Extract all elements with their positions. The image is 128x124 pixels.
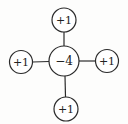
left-node-label: +1 <box>13 56 29 69</box>
bottom-node: +1 <box>54 97 78 121</box>
bottom-node-label: +1 <box>58 103 74 116</box>
stencil-diagram: −4 +1 +1 +1 +1 <box>0 0 128 124</box>
center-node: −4 <box>49 46 79 76</box>
edge-bottom <box>65 76 66 97</box>
edge-left <box>33 62 50 63</box>
stencil-svg: −4 +1 +1 +1 +1 <box>0 0 128 124</box>
left-node: +1 <box>10 51 33 74</box>
top-node-label: +1 <box>56 14 72 27</box>
right-node-label: +1 <box>99 55 115 68</box>
top-node: +1 <box>52 8 76 32</box>
center-node-label: −4 <box>55 54 73 68</box>
right-node: +1 <box>96 50 119 73</box>
